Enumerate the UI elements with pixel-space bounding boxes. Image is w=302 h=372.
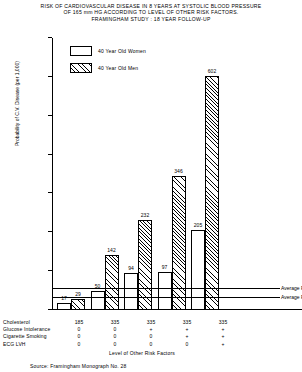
bar-women-group-2[interactable]: 50 bbox=[91, 291, 105, 310]
risk-factor-value: 335 bbox=[169, 318, 205, 325]
risk-factor-value: 0 bbox=[61, 340, 97, 347]
risk-factor-value: + bbox=[205, 333, 241, 340]
bar-group-5: 205602 bbox=[191, 38, 219, 310]
y-tick-300 bbox=[48, 192, 52, 193]
risk-factor-name: Cigarette Smoking bbox=[3, 333, 61, 340]
bar-value-label: 232 bbox=[141, 212, 149, 218]
risk-factor-value: 0 bbox=[61, 325, 97, 332]
risk-factor-value: + bbox=[169, 333, 205, 340]
bar-value-label: 142 bbox=[107, 247, 115, 253]
risk-factor-value: 0 bbox=[97, 325, 133, 332]
y-axis-label: Probability of C.V. Disease (per 1,000) bbox=[14, 61, 20, 146]
risk-factor-value: + bbox=[169, 325, 205, 332]
table-row: Cholesterol185335335335335 bbox=[3, 318, 241, 325]
risk-factor-value: 185 bbox=[61, 318, 97, 325]
bar-group-3: 94232 bbox=[124, 38, 152, 310]
table-row: Glucose Intolerance00+++ bbox=[3, 325, 241, 332]
reference-leader-women bbox=[272, 297, 280, 298]
risk-factor-value: + bbox=[133, 325, 169, 332]
x-axis-title: Level of Other Risk Factors bbox=[52, 350, 232, 356]
risk-factor-name: Cholesterol bbox=[3, 318, 61, 325]
bar-group-2: 50142 bbox=[91, 38, 119, 310]
risk-factor-value: 0 bbox=[133, 333, 169, 340]
bar-men-group-5[interactable]: 602 bbox=[205, 76, 219, 310]
risk-factor-value: 335 bbox=[97, 318, 133, 325]
bar-group-4: 97346 bbox=[158, 38, 186, 310]
reference-line-women bbox=[53, 297, 272, 298]
bar-men-group-4[interactable]: 346 bbox=[172, 176, 186, 310]
risk-factor-table: Cholesterol185335335335335Glucose Intole… bbox=[3, 318, 299, 348]
bar-value-label: 94 bbox=[128, 265, 134, 271]
bar-value-label: 97 bbox=[162, 264, 168, 270]
bar-women-group-5[interactable]: 205 bbox=[191, 230, 205, 310]
risk-factor-value: + bbox=[205, 325, 241, 332]
risk-factor-value: 0 bbox=[169, 340, 205, 347]
risk-factor-value: 0 bbox=[97, 340, 133, 347]
risk-factor-value: + bbox=[205, 340, 241, 347]
bar-value-label: 205 bbox=[194, 222, 202, 228]
bar-men-group-1[interactable]: 29 bbox=[71, 299, 85, 310]
bar-value-label: 346 bbox=[174, 168, 182, 174]
table-row: ECG LVH0000+ bbox=[3, 340, 241, 347]
table-row: Cigarette Smoking000++ bbox=[3, 333, 241, 340]
reference-label-women: Average Risk Women bbox=[281, 294, 302, 300]
chart-title-line-3: FRAMINGHAM STUDY : 18 YEAR FOLLOW-UP bbox=[0, 16, 302, 22]
bar-women-group-1[interactable]: 17 bbox=[57, 303, 71, 310]
bar-women-group-3[interactable]: 94 bbox=[124, 273, 138, 310]
reference-leader-men bbox=[272, 288, 280, 289]
bar-value-label: 602 bbox=[208, 68, 216, 74]
risk-factor-value: 335 bbox=[205, 318, 241, 325]
y-tick-700 bbox=[48, 37, 52, 38]
y-tick-200 bbox=[48, 231, 52, 232]
y-axis-line bbox=[52, 38, 53, 310]
risk-factor-value: 0 bbox=[61, 333, 97, 340]
risk-factor-value: 0 bbox=[133, 340, 169, 347]
plot-area: Probability of C.V. Disease (per 1,000) … bbox=[52, 38, 225, 310]
reference-line-men bbox=[53, 288, 272, 289]
risk-factor-table-body: Cholesterol185335335335335Glucose Intole… bbox=[3, 318, 241, 348]
y-tick-0 bbox=[48, 309, 52, 310]
bar-group-1: 1729 bbox=[57, 38, 85, 310]
source-note: Source: Framingham Monograph No. 28 bbox=[30, 363, 127, 369]
risk-factor-value: 335 bbox=[133, 318, 169, 325]
chart-title: RISK OF CARDIOVASCULAR DISEASE IN 8 YEAR… bbox=[0, 3, 302, 22]
bar-men-group-2[interactable]: 142 bbox=[105, 255, 119, 310]
y-tick-400 bbox=[48, 154, 52, 155]
risk-factor-name: Glucose Intolerance bbox=[3, 325, 61, 332]
y-tick-100 bbox=[48, 270, 52, 271]
bar-women-group-4[interactable]: 97 bbox=[158, 272, 172, 310]
risk-factor-value: 0 bbox=[97, 333, 133, 340]
y-tick-500 bbox=[48, 115, 52, 116]
risk-factor-name: ECG LVH bbox=[3, 340, 61, 347]
y-tick-600 bbox=[48, 76, 52, 77]
reference-label-men: Average Risk Men bbox=[281, 285, 302, 291]
